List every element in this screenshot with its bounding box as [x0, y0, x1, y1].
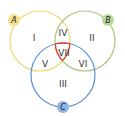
region-label-iv: IV	[59, 28, 69, 38]
region-label-v: V	[42, 59, 49, 69]
region-label-ii: II	[89, 33, 94, 43]
set-c-label: C	[60, 103, 66, 112]
set-b-label: B	[105, 16, 111, 25]
region-label-vii: VII	[58, 48, 69, 58]
region-label-i: I	[33, 33, 36, 43]
venn-diagram: A B C I II III IV V VI VII	[0, 0, 125, 116]
center-region-outline-c	[10, 11, 115, 107]
region-label-vi: VI	[79, 59, 88, 69]
region-label-iii: III	[59, 79, 67, 89]
set-a-label: A	[10, 16, 16, 25]
